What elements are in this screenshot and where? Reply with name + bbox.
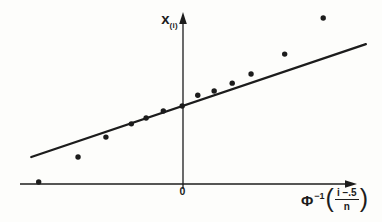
data-point [321, 15, 326, 20]
fit-line [31, 44, 366, 157]
fraction-numerator: i −.5 [335, 187, 359, 200]
data-point [282, 51, 287, 56]
data-point [211, 88, 216, 93]
normal-probability-plot-figure: x(i) 0 Φ−1(i −.5n) [0, 0, 382, 222]
phi-symbol: Φ [301, 192, 313, 209]
y-axis-arrowhead-icon [179, 12, 187, 24]
open-paren-icon: ( [326, 186, 334, 211]
phi-inverse-exponent: −1 [314, 191, 324, 201]
quantile-fraction: i −.5n [335, 187, 359, 212]
y-axis-label-base: x [161, 10, 169, 27]
x-axis-label: Φ−1(i −.5n) [301, 188, 368, 213]
y-axis-label-subscript: (i) [170, 21, 178, 30]
data-point [248, 71, 253, 76]
data-point [75, 154, 80, 159]
data-point [103, 134, 108, 139]
fraction-denominator: n [344, 200, 350, 212]
data-point [230, 80, 235, 85]
data-point [179, 103, 184, 108]
data-point [143, 115, 148, 120]
data-point [36, 179, 41, 184]
close-paren-icon: ) [360, 186, 368, 211]
data-point [161, 108, 166, 113]
x-axis-zero-tick-label: 0 [174, 185, 191, 197]
data-point [129, 121, 134, 126]
y-axis-label: x(i) [136, 10, 178, 30]
data-point [195, 92, 200, 97]
